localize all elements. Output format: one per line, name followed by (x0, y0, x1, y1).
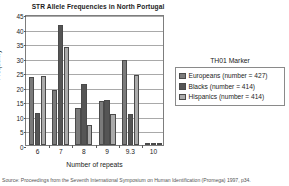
legend-swatch-icon (179, 73, 186, 80)
y-axis-tick-mark (24, 147, 26, 148)
bar (104, 100, 109, 145)
x-axis-tick-label: 8 (82, 148, 86, 155)
bar (134, 75, 139, 145)
source-note: Source: Proceedings from the Seventh Int… (2, 177, 251, 183)
bar (35, 113, 40, 145)
bar (52, 90, 57, 145)
y-axis-tick-label: 5 (20, 129, 24, 136)
bar (110, 114, 115, 145)
legend: Europeans (number = 427)Blacks (number =… (175, 67, 285, 106)
x-axis-tick-label: 10 (150, 148, 157, 155)
y-axis-tick-label: 25 (16, 71, 23, 78)
x-axis-tick-label: 6 (36, 148, 40, 155)
plot-area: 051015202530354045 67899.310 (25, 15, 164, 146)
legend-item-label: Blacks (number = 414) (189, 83, 256, 90)
y-axis-tick-label: 10 (16, 114, 23, 121)
bar (151, 143, 156, 145)
legend-swatch-icon (179, 83, 186, 90)
bar-group (142, 16, 165, 145)
x-axis-tick-mark (49, 145, 50, 148)
legend-title: TH01 Marker (176, 57, 284, 64)
chart-figure: STR Allele Frequencies in North Portugal… (0, 0, 289, 186)
bar (87, 125, 92, 145)
x-axis-tick-label: 9.3 (126, 148, 135, 155)
bar (128, 114, 133, 145)
bar-group (119, 16, 142, 145)
bar-group (72, 16, 95, 145)
x-axis-title: Number of repeats (25, 161, 164, 168)
x-axis-tick-mark (142, 145, 143, 148)
legend-item[interactable]: Blacks (number = 414) (179, 81, 281, 92)
y-axis-tick-label: 35 (16, 42, 23, 49)
bar (157, 143, 162, 145)
y-axis-tick-label: 0 (20, 144, 24, 151)
legend-item[interactable]: Hispanics (number = 414) (179, 92, 281, 103)
y-axis-tick-label: 30 (16, 56, 23, 63)
bar-group (96, 16, 119, 145)
bar (41, 76, 46, 145)
bar-group (49, 16, 72, 145)
bar (122, 60, 127, 145)
bar (64, 47, 69, 145)
bar (29, 77, 34, 145)
y-axis-tick-label: 20 (16, 85, 23, 92)
y-axis-tick-label: 45 (16, 13, 23, 20)
chart-title: STR Allele Frequencies in North Portugal (18, 3, 178, 10)
y-axis-tick-label: 15 (16, 100, 23, 107)
x-axis-tick-mark (119, 145, 120, 148)
legend-item[interactable]: Europeans (number = 427) (179, 71, 281, 82)
x-axis-tick-mark (96, 145, 97, 148)
x-axis-tick-label: 9 (105, 148, 109, 155)
bar (58, 25, 63, 145)
y-axis-title: Frequency (0, 50, 1, 80)
bar (145, 143, 150, 145)
legend-item-label: Hispanics (number = 414) (189, 93, 265, 100)
y-axis-tick-label: 40 (16, 27, 23, 34)
legend-swatch-icon (179, 94, 186, 101)
legend-item-label: Europeans (number = 427) (189, 72, 268, 79)
x-axis-tick-label: 7 (59, 148, 63, 155)
bar (99, 101, 104, 145)
x-axis-tick-mark (72, 145, 73, 148)
bar-group (26, 16, 49, 145)
bar (81, 84, 86, 145)
bar (75, 108, 80, 145)
